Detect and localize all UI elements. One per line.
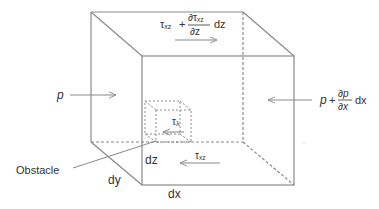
- dy-label: dy: [108, 173, 121, 187]
- top-stress-label: τxz + ∂τxz ∂z dz: [160, 12, 226, 37]
- svg-text:τxz: τxz: [160, 18, 172, 30]
- svg-text:dx: dx: [355, 94, 367, 106]
- bottom-stress-label: τxz: [195, 150, 205, 161]
- right-pressure-label: p + ∂p ∂x dx: [319, 88, 367, 112]
- obstacle-leader-line: [73, 141, 156, 168]
- svg-text:dz: dz: [214, 18, 226, 30]
- arrows: [70, 40, 312, 163]
- left-pressure-label: p: [56, 88, 64, 102]
- dx-label: dx: [168, 187, 181, 201]
- stray-dot: [303, 142, 304, 143]
- svg-text:p: p: [319, 93, 327, 107]
- obstacle-cube: [145, 101, 191, 142]
- control-volume-diagram: τxz + ∂τxz ∂z dz p p + ∂p ∂x dx τλ τxz d…: [0, 0, 379, 209]
- dz-label: dz: [145, 153, 158, 167]
- obstacle-stress-label: τλ: [172, 116, 180, 127]
- large-cube: [91, 12, 294, 185]
- top-right-depth-edge: [243, 12, 294, 56]
- top-left-depth-edge: [91, 12, 142, 56]
- svg-text:∂x: ∂x: [338, 101, 349, 112]
- svg-text:+: +: [179, 18, 185, 30]
- svg-text:∂z: ∂z: [190, 26, 200, 37]
- obstacle-label: Obstacle: [16, 164, 59, 176]
- svg-text:∂τxz: ∂τxz: [188, 12, 203, 23]
- svg-text:∂p: ∂p: [338, 88, 349, 99]
- svg-text:+: +: [329, 94, 335, 106]
- bottom-right-depth-edge-hidden: [243, 142, 294, 185]
